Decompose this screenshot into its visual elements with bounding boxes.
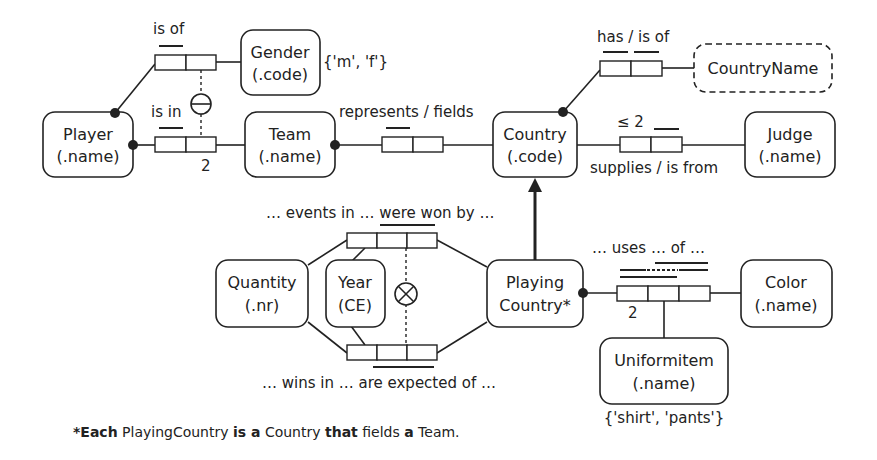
fact-reading: … uses … of … <box>592 239 705 257</box>
entity-name: Color <box>765 273 807 292</box>
connector <box>115 64 155 113</box>
entity-playing-country[interactable]: Playing Country* <box>487 260 583 327</box>
entity-ref-mode: (.name) <box>259 147 322 166</box>
mandatory-dot <box>330 140 340 150</box>
fact-reading: supplies / is from <box>590 159 718 177</box>
frequency-constraint: 2 <box>628 304 638 322</box>
entity-name: Year <box>337 273 372 292</box>
connector <box>351 326 365 345</box>
entity-ref-mode: (.nr) <box>245 296 279 315</box>
entity-name: Country <box>503 125 567 144</box>
mandatory-dot <box>578 288 588 298</box>
entity-year[interactable]: Year (CE) <box>326 260 385 327</box>
fact-reading: has / is of <box>597 28 670 46</box>
connector <box>437 240 487 267</box>
mandatory-dot <box>558 107 568 117</box>
connector <box>437 322 487 353</box>
entity-gender[interactable]: Gender (.code) <box>241 30 320 95</box>
fact-type-expected-of[interactable]: … wins in … are expected of … <box>262 345 496 392</box>
exclusion-constraint <box>395 283 417 305</box>
fact-reading: … wins in … are expected of … <box>262 374 496 392</box>
exclusive-or-constraint <box>191 94 211 114</box>
entity-judge[interactable]: Judge (.name) <box>745 112 835 177</box>
arrowhead-icon <box>528 178 542 192</box>
connector <box>563 70 600 112</box>
entity-ref-mode: (.name) <box>633 374 696 393</box>
fact-type-uses[interactable]: … uses … of … 2 <box>592 239 710 322</box>
entity-name: CountryName <box>708 59 819 78</box>
entity-uniform-item[interactable]: Uniformitem (.name) <box>600 338 728 404</box>
value-constraint: {'shirt', 'pants'} <box>604 409 725 427</box>
entity-ref-mode: (.name) <box>759 147 822 166</box>
frequency-constraint: 2 <box>201 157 211 175</box>
entity-color[interactable]: Color (.name) <box>741 260 832 327</box>
fact-type-is-in[interactable]: is in 2 <box>151 103 216 175</box>
fact-reading: is of <box>153 20 185 38</box>
value-type-countryname[interactable]: CountryName <box>694 44 832 92</box>
entity-player[interactable]: Player (.name) <box>43 112 133 177</box>
entity-name: Player <box>63 125 113 144</box>
entity-name: Quantity <box>227 273 296 292</box>
mandatory-dot <box>128 140 138 150</box>
fact-reading: represents / fields <box>339 103 474 121</box>
frequency-constraint: ≤ 2 <box>617 113 644 131</box>
entity-quantity[interactable]: Quantity (.nr) <box>216 260 308 327</box>
fact-type-has[interactable]: has / is of <box>597 28 670 76</box>
value-constraint: {'m', 'f'} <box>323 53 388 71</box>
entity-country[interactable]: Country (.code) <box>493 112 577 177</box>
entity-ref-mode: (CE) <box>338 296 372 315</box>
footnote: *Each PlayingCountry is a Country that f… <box>73 424 460 440</box>
fact-reading: is in <box>151 103 181 121</box>
entity-ref-mode: (.code) <box>252 65 308 84</box>
entity-name: Judge <box>766 125 812 144</box>
fact-reading: … events in … were won by … <box>266 204 495 222</box>
entity-name: Playing <box>506 273 564 292</box>
entity-name: Gender <box>251 43 310 62</box>
entity-ref-mode: (.code) <box>507 147 563 166</box>
entity-name: Uniformitem <box>614 351 714 370</box>
entity-name-line2: Country* <box>499 296 571 315</box>
orm-diagram: Player (.name) Gender (.code) {'m', 'f'}… <box>0 0 877 460</box>
entity-ref-mode: (.name) <box>755 296 818 315</box>
entity-name: Team <box>268 125 311 144</box>
fact-type-is-of[interactable]: is of <box>153 20 216 70</box>
entity-ref-mode: (.name) <box>57 147 120 166</box>
fact-type-won-by[interactable]: … events in … were won by … <box>266 204 495 248</box>
entity-team[interactable]: Team (.name) <box>245 112 335 177</box>
mandatory-dot <box>110 108 120 118</box>
